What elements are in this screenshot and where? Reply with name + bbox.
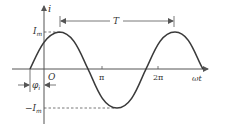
phase-label: φi [32, 80, 40, 91]
neg-im-label: −Im [25, 103, 42, 114]
pi-tick-label: π [99, 73, 104, 82]
y-axis-label: i [48, 3, 51, 14]
x-axis-label: ωt [192, 74, 203, 83]
sine-wave-diagram: i ωt O Im −Im T φi π 2π [0, 0, 234, 129]
origin-label: O [48, 72, 56, 82]
im-label: Im [32, 26, 43, 37]
sine-curve [30, 32, 203, 108]
period-label: T [113, 16, 120, 26]
two-pi-tick-label: 2π [153, 73, 163, 82]
